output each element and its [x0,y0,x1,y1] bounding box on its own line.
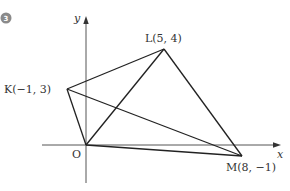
y-axis-arrow-icon [83,16,88,24]
origin-label: O [72,148,81,161]
point-K-label: K(−1, 3) [4,83,51,96]
segment-KL [67,49,164,89]
segment-OL [86,49,164,145]
coordinate-diagram: 3 x y O K(−1, 3) L(5, 4) M(8, −1) [0,0,290,191]
problem-number-badge: 3 [1,13,12,24]
problem-number: 3 [4,15,9,23]
x-axis-label: x [277,148,284,161]
polygon-segments [67,49,242,156]
segment-LM [164,49,242,156]
point-M-label: M(8, −1) [226,161,276,174]
segment-OK [67,89,86,145]
y-axis-label: y [73,12,81,25]
point-L-label: L(5, 4) [145,32,182,45]
x-axis-arrow-icon [273,142,281,147]
